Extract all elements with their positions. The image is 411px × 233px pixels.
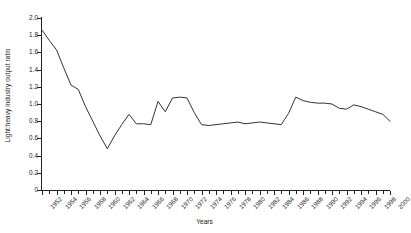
x-tick-label: 1980 xyxy=(252,196,266,210)
x-tick-label: 2000 xyxy=(397,196,411,210)
x-tick-label: 1956 xyxy=(78,196,92,210)
x-tick-label: 1968 xyxy=(165,196,179,210)
x-tick-label: 1960 xyxy=(107,196,121,210)
x-tick-label: 1970 xyxy=(180,196,194,210)
x-tick-label: 1982 xyxy=(267,196,281,210)
x-tick-label: 1962 xyxy=(122,196,136,210)
x-tick-label: 1976 xyxy=(223,196,237,210)
x-tick-label: 1952 xyxy=(49,196,63,210)
x-tick-label: 1986 xyxy=(296,196,310,210)
x-tick-label: 1958 xyxy=(93,196,107,210)
x-tick-label: 1998 xyxy=(383,196,397,210)
x-axis-title: Years xyxy=(0,218,409,225)
x-tick-label: 1972 xyxy=(194,196,208,210)
x-tick-label: 1988 xyxy=(310,196,324,210)
x-tick-label: 1990 xyxy=(325,196,339,210)
x-tick-label: 1964 xyxy=(136,196,150,210)
x-tick-label: 1984 xyxy=(281,196,295,210)
x-tick-label: 1978 xyxy=(238,196,252,210)
x-tick-label: 1996 xyxy=(368,196,382,210)
x-tick-label: 1992 xyxy=(339,196,353,210)
x-tick-label: 1966 xyxy=(151,196,165,210)
x-tick-label: 1954 xyxy=(64,196,78,210)
x-tick-label: 1974 xyxy=(209,196,223,210)
x-tick-label: 1994 xyxy=(354,196,368,210)
